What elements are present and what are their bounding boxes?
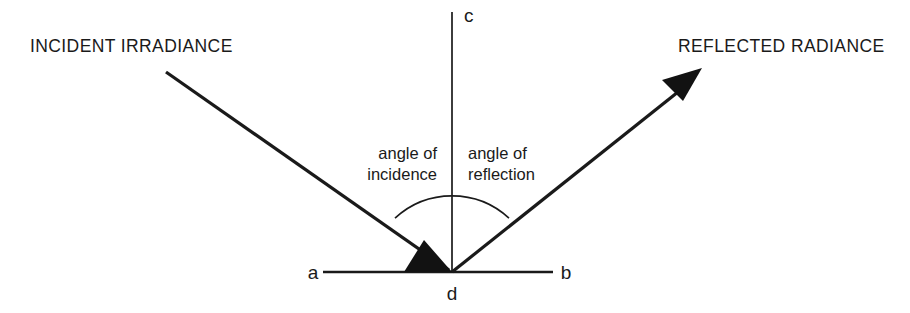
- point-label-b: b: [561, 262, 572, 283]
- angle-of-incidence-label-line2: incidence: [367, 165, 437, 183]
- reflection-diagram: INCIDENT IRRADIANCE REFLECTED RADIANCE a…: [0, 0, 910, 313]
- incident-irradiance-label: INCIDENT IRRADIANCE: [30, 36, 233, 56]
- reflected-ray-arrowhead: [662, 68, 702, 101]
- point-label-d: d: [447, 283, 458, 304]
- angle-of-reflection-label-line1: angle of: [468, 144, 527, 162]
- point-label-c: c: [464, 5, 474, 26]
- angle-of-reflection-label-line2: reflection: [468, 165, 535, 183]
- angle-of-incidence-label-line1: angle of: [378, 144, 437, 162]
- diagram-canvas: INCIDENT IRRADIANCE REFLECTED RADIANCE a…: [0, 0, 910, 313]
- reflected-radiance-label: REFLECTED RADIANCE: [678, 36, 885, 56]
- point-label-a: a: [308, 262, 319, 283]
